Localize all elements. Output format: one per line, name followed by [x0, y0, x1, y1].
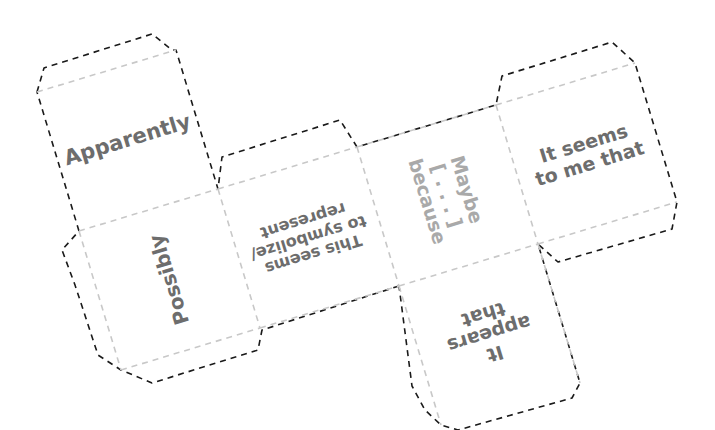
face-text: It seems to me that: [527, 117, 647, 189]
face-text: Maybe [ . . . ] because: [405, 144, 490, 246]
face-text: Apparently: [62, 110, 194, 170]
face-text: Possibly: [146, 231, 194, 327]
face-text: It appears that: [439, 292, 540, 376]
face-text: This seems to symbolize/ represent: [243, 195, 373, 280]
